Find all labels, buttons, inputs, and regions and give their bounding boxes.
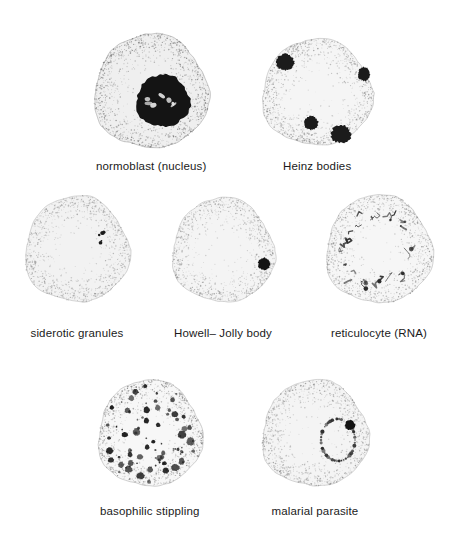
figure-caption-siderotic-granules: siderotic granules — [31, 327, 124, 339]
figure-caption-howell-jolly-body: Howell– Jolly body — [174, 327, 272, 339]
figure-caption-basophilic-stippling: basophilic stippling — [100, 505, 200, 517]
cell-drawing-malarial-parasite — [0, 0, 470, 533]
figure-malarial-parasite — [0, 0, 470, 533]
rbc-inclusion-plate: normoblast (nucleus)Heinz bodiessideroti… — [0, 0, 470, 533]
figure-caption-normoblast: normoblast (nucleus) — [96, 160, 206, 172]
figure-caption-reticulocyte: reticulocyte (RNA) — [331, 327, 427, 339]
figure-caption-malarial-parasite: malarial parasite — [272, 505, 359, 517]
figure-caption-heinz-bodies: Heinz bodies — [283, 160, 351, 172]
